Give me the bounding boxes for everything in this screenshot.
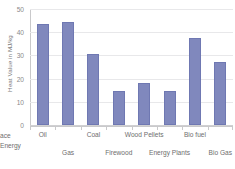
y-tick-label: 30 [17, 52, 24, 59]
x-tick [182, 126, 183, 130]
y-tick-label: 40 [17, 29, 24, 36]
x-tick-label: Gas [62, 149, 74, 156]
bar-chart: Heat Value in MJ/kg 01020304050 ace Ener… [0, 0, 235, 169]
bar[interactable] [37, 24, 49, 125]
x-tick [132, 126, 133, 130]
x-tick-label: Firewood [105, 149, 132, 156]
left-clipped-caption: ace Energy [0, 131, 21, 150]
x-tick [55, 126, 56, 130]
x-tick-label: Energy Plants [149, 149, 190, 156]
gridline-20 [30, 79, 233, 80]
x-tick-label: Bio fuel [184, 131, 206, 138]
gridline-40 [30, 32, 233, 33]
x-tick-label: Coal [87, 131, 101, 138]
y-tick-label: 20 [17, 75, 24, 82]
gridline-30 [30, 55, 233, 56]
bar[interactable] [87, 54, 99, 125]
bar[interactable] [113, 91, 125, 125]
x-tick-label: Bio Gas [209, 149, 232, 156]
bar[interactable] [62, 22, 74, 125]
x-tick [106, 126, 107, 130]
y-tick-label: 10 [17, 98, 24, 105]
left-caption-line-1: ace [0, 131, 21, 141]
x-tick-label: Oil [39, 131, 47, 138]
bar[interactable] [214, 62, 226, 125]
x-tick [30, 126, 31, 130]
bar[interactable] [138, 83, 150, 125]
y-tick-label: 50 [17, 6, 24, 13]
x-tick [232, 126, 233, 130]
gridline-50 [30, 9, 233, 10]
x-tick [157, 126, 158, 130]
left-caption-line-2: Energy [0, 141, 21, 151]
x-tick [81, 126, 82, 130]
x-axis-ticks [30, 126, 233, 130]
x-tick [208, 126, 209, 130]
y-axis-tick-labels: 01020304050 [0, 9, 28, 125]
y-tick-label: 0 [20, 122, 24, 129]
bar[interactable] [164, 91, 176, 125]
gridline-10 [30, 102, 233, 103]
plot-area [30, 9, 233, 125]
x-tick-label: Wood Pellets [125, 131, 164, 138]
bar[interactable] [189, 38, 201, 125]
